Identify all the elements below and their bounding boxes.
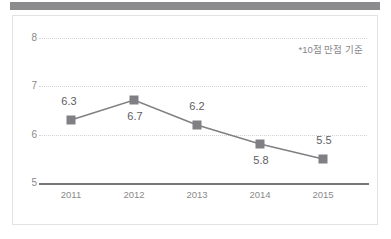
data-marker-2013 bbox=[193, 121, 202, 130]
data-marker-2011 bbox=[67, 116, 76, 125]
top-decorative-bar bbox=[10, 2, 380, 10]
data-label-2014: 5.8 bbox=[253, 155, 268, 166]
data-label-2013: 6.2 bbox=[189, 101, 204, 112]
series-plot bbox=[13, 16, 379, 226]
data-marker-2012 bbox=[130, 96, 139, 105]
data-label-2015: 5.5 bbox=[316, 135, 331, 146]
data-label-2012: 6.7 bbox=[127, 111, 142, 122]
chart-frame: 8 7 6 5 2011 2012 2013 2014 2015 *10점 만점… bbox=[12, 15, 378, 225]
data-marker-2014 bbox=[256, 140, 265, 149]
data-label-2011: 6.3 bbox=[61, 96, 76, 107]
data-marker-2015 bbox=[319, 155, 328, 164]
